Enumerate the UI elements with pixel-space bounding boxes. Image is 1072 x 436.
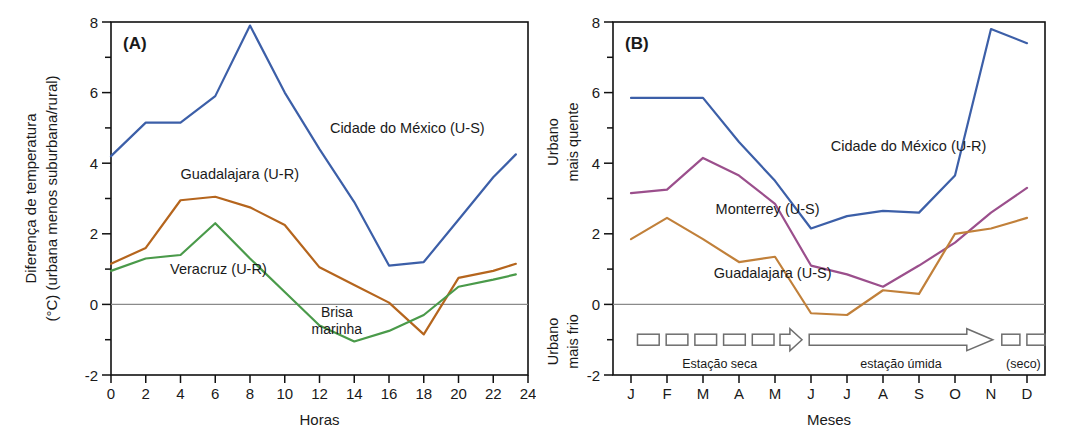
y-tick-label: 8 — [592, 14, 600, 31]
y-tick-label: -2 — [587, 367, 600, 384]
season-dash — [695, 334, 717, 345]
y-tick-label: 4 — [592, 155, 600, 172]
x-tick-label: M — [769, 385, 782, 402]
y-axis-name-top-line1: Urbano — [545, 118, 561, 166]
x-tick-label: 16 — [381, 385, 398, 402]
panel-tag: (B) — [625, 34, 649, 53]
season-dash — [637, 334, 659, 345]
season-arrowhead — [780, 329, 802, 351]
x-tick-label: S — [914, 385, 924, 402]
y-tick-label: 0 — [90, 296, 98, 313]
season-dash — [1002, 334, 1020, 345]
x-axis-title: Meses — [807, 411, 851, 428]
y-axis-name-top-line2: mais quente — [565, 103, 581, 182]
panel-tag: (A) — [123, 34, 147, 53]
series-label: Monterrey (U-S) — [716, 201, 820, 217]
x-tick-label: O — [949, 385, 961, 402]
season-label: Estação seca — [682, 357, 757, 371]
y-axis-name-bottom-line2: mais frio — [565, 314, 581, 369]
panel-a-chart: -202468024681012141618202224(A)Cidade do… — [0, 0, 536, 436]
y-axis-title-line1: Diferença de temperatura — [22, 113, 39, 284]
y-axis-title-line2: (°C) (urbana menos suburbana/rural) — [43, 75, 60, 321]
y-axis-name-bottom-line1: Urbano — [545, 318, 561, 366]
series-line-cidade-do-m-xico-u-r — [631, 29, 1027, 228]
x-tick-label: 10 — [276, 385, 293, 402]
x-tick-label: 2 — [142, 385, 150, 402]
season-dash — [666, 334, 688, 345]
y-tick-label: 6 — [592, 84, 600, 101]
y-tick-label: 2 — [592, 225, 600, 242]
x-tick-label: A — [878, 385, 888, 402]
season-arrow — [809, 329, 993, 351]
y-tick-label: -2 — [85, 367, 98, 384]
season-label: estação úmida — [860, 357, 941, 371]
y-tick-label: 6 — [90, 84, 98, 101]
x-tick-label: 8 — [246, 385, 254, 402]
y-tick-label: 4 — [90, 155, 98, 172]
x-tick-label: J — [627, 385, 635, 402]
x-tick-label: 6 — [211, 385, 219, 402]
figure-root: -202468024681012141618202224(A)Cidade do… — [0, 0, 1072, 436]
x-tick-label: 24 — [520, 385, 536, 402]
x-tick-label: F — [662, 385, 671, 402]
x-tick-label: 4 — [176, 385, 184, 402]
x-tick-label: 20 — [450, 385, 467, 402]
x-tick-label: 18 — [415, 385, 432, 402]
series-label: Veracruz (U-R) — [170, 261, 267, 277]
series-label: Guadalajara (U-S) — [714, 265, 832, 281]
series-label: Guadalajara (U-R) — [181, 166, 299, 182]
x-tick-label: A — [734, 385, 744, 402]
y-tick-label: 8 — [90, 14, 98, 31]
season-marker-esta-o-mida — [809, 329, 993, 351]
panel-b: -202468JFMAMJJASOND(B)Cidade do México (… — [536, 0, 1072, 436]
x-tick-label: 14 — [346, 385, 363, 402]
annotation-brisa-line2: marinha — [312, 321, 363, 337]
x-tick-label: N — [986, 385, 997, 402]
x-tick-label: 0 — [107, 385, 115, 402]
panel-b-chart: -202468JFMAMJJASOND(B)Cidade do México (… — [536, 0, 1072, 436]
annotation-brisa-line1: Brisa — [321, 304, 353, 320]
y-tick-label: 0 — [592, 296, 600, 313]
season-marker-seco — [1002, 334, 1045, 345]
x-tick-label: J — [843, 385, 851, 402]
x-tick-label: D — [1022, 385, 1033, 402]
season-dash — [1027, 334, 1045, 345]
x-tick-label: M — [697, 385, 710, 402]
series-line-cidade-do-m-xico-u-s — [111, 26, 516, 266]
season-label: (seco) — [1006, 357, 1041, 371]
panel-a: -202468024681012141618202224(A)Cidade do… — [0, 0, 536, 436]
y-tick-label: 2 — [90, 225, 98, 242]
x-tick-label: 22 — [485, 385, 502, 402]
x-tick-label: 12 — [311, 385, 328, 402]
series-label: Cidade do México (U-S) — [330, 120, 485, 136]
season-dash — [724, 334, 746, 345]
season-dash — [752, 334, 774, 345]
series-label: Cidade do México (U-R) — [831, 138, 987, 154]
x-tick-label: J — [807, 385, 815, 402]
x-axis-title: Horas — [299, 411, 339, 428]
season-marker-esta-o-seca — [637, 329, 802, 351]
